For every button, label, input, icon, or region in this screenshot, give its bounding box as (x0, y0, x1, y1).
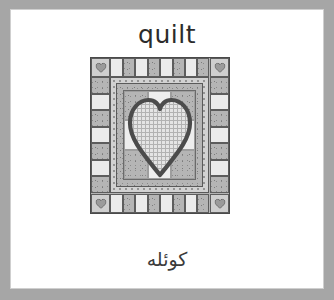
border-patch (110, 58, 123, 77)
patch (148, 150, 172, 179)
border-patch (148, 194, 160, 213)
patch (124, 91, 148, 120)
heart-icon (214, 62, 225, 72)
heart-icon (95, 62, 106, 72)
patch (171, 120, 195, 149)
border-patch (91, 143, 110, 160)
border-patch (135, 194, 148, 213)
border-patch (210, 160, 229, 176)
heart-icon (95, 198, 106, 208)
border-patch (135, 58, 148, 77)
border-patch (197, 58, 209, 77)
border-patch (123, 194, 135, 213)
corner-heart-block-bottom-right (210, 194, 229, 213)
border-patch (91, 77, 110, 94)
border-patch (197, 194, 209, 213)
border-patch (91, 127, 110, 143)
card-inner: quilt (10, 9, 324, 289)
border-patch (210, 127, 229, 143)
border-patch (210, 143, 229, 160)
corner-heart-block-top-right (210, 58, 229, 77)
border-patch (91, 94, 110, 110)
border-patch (91, 110, 110, 127)
border-patch (160, 58, 173, 77)
heart-icon (214, 198, 225, 208)
border-patch (173, 194, 185, 213)
border-patch (210, 110, 229, 127)
border-patch (173, 58, 185, 77)
patch (124, 150, 148, 179)
border-patch (210, 77, 229, 94)
patch (171, 150, 195, 179)
border-patch (91, 176, 110, 193)
flashcard: quilt (0, 0, 334, 300)
border-patch (185, 58, 197, 77)
border-patch (210, 176, 229, 193)
border-patch (123, 58, 135, 77)
patch (171, 91, 195, 120)
corner-heart-block-top-left (91, 58, 110, 77)
border-patch (185, 194, 197, 213)
quilt-illustration (90, 57, 230, 214)
border-patch (160, 194, 173, 213)
page-title: quilt (11, 22, 323, 47)
border-patch (148, 58, 160, 77)
patch (148, 91, 172, 120)
border-patch (110, 194, 123, 213)
patch (148, 120, 172, 149)
border-patch (210, 94, 229, 110)
border-patch (91, 160, 110, 176)
patch (124, 120, 148, 149)
corner-heart-block-bottom-left (91, 194, 110, 213)
translation-text: كوئلە (11, 249, 323, 270)
quilt-center-panel (123, 90, 196, 180)
